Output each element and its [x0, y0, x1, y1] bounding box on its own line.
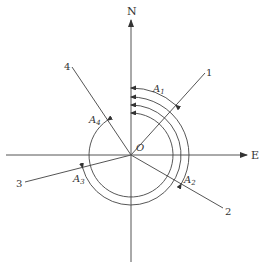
angle-arc-a2: [131, 97, 189, 184]
line-4: [72, 67, 131, 155]
line-2: [131, 155, 223, 208]
angle-label-a4: A4: [88, 114, 101, 127]
angle-label-a2: A2: [183, 174, 196, 187]
azimuth-diagram: N E 1 2 3 4 A1 A2 A3 A4 O: [0, 0, 264, 273]
origin-label: O: [136, 142, 144, 153]
line-2-label: 2: [225, 206, 231, 217]
line-1-label: 1: [206, 67, 212, 78]
line-4-label: 4: [64, 61, 70, 72]
line-3-label: 3: [16, 178, 22, 189]
north-label: N: [127, 5, 137, 18]
angle-label-a3: A3: [72, 173, 85, 186]
east-label: E: [251, 149, 259, 162]
